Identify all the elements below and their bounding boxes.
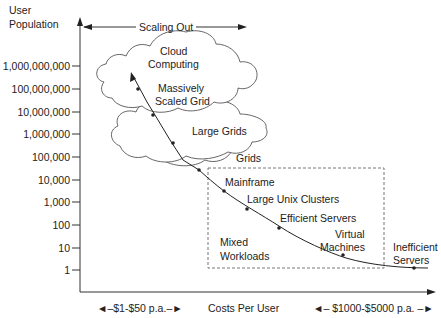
y-axis-title-line1: User [9,4,31,16]
inefficient-servers-label-1: Inefficient [393,241,438,253]
y-tick-label: 10 [0,242,70,254]
mixed-workloads-label-1: Mixed [220,236,248,248]
y-axis [72,17,83,292]
y-tick-label: 100,000 [0,151,70,163]
y-axis-title-line2: Population [9,18,59,30]
mixed-workloads-label-2: Workloads [220,250,269,262]
virtual-machines-label-1: Virtual [335,228,365,240]
massively-scaled-grid-label-2: Scaled Grid [155,95,210,107]
high-cost-range-label: ◄– $1000-$5000 p.a. –► [313,302,434,314]
massively-scaled-grid-label-1: Massively [158,82,204,94]
scaling-out-label: Scaling Out [139,21,193,33]
y-tick-label: 1,000,000,000 [0,60,70,72]
y-tick-label: 1 [0,264,70,276]
grids-label: Grids [236,152,261,164]
low-cost-range-label: ◄–$1-$50 p.a.–► [97,302,183,314]
cloud-computing-label-1: Cloud [160,45,187,57]
y-tick-label: 10,000 [0,174,70,186]
virtual-machines-label-2: Machines [320,241,365,253]
x-axis-title: Costs Per User [208,302,279,314]
y-tick-label: 100 [0,219,70,231]
mainframe-label: Mainframe [225,176,275,188]
y-tick-label: 1,000 [0,196,70,208]
right-arrow-icon: –► [166,302,182,314]
x-axis [80,289,436,295]
inefficient-servers-label-2: Servers [393,254,429,266]
efficient-servers-label: Efficient Servers [280,212,356,224]
y-tick-label: 100,000,000 [0,83,70,95]
left-arrow-icon: ◄– [313,302,332,314]
y-tick-label: 10,000,000 [0,106,70,118]
right-arrow-icon: –► [414,302,433,314]
left-arrow-icon: ◄– [97,302,113,314]
cloud-computing-label-2: Computing [148,58,199,70]
large-unix-clusters-label: Large Unix Clusters [247,193,339,205]
large-grids-label: Large Grids [192,125,247,137]
y-tick-label: 1,000,000 [0,128,70,140]
